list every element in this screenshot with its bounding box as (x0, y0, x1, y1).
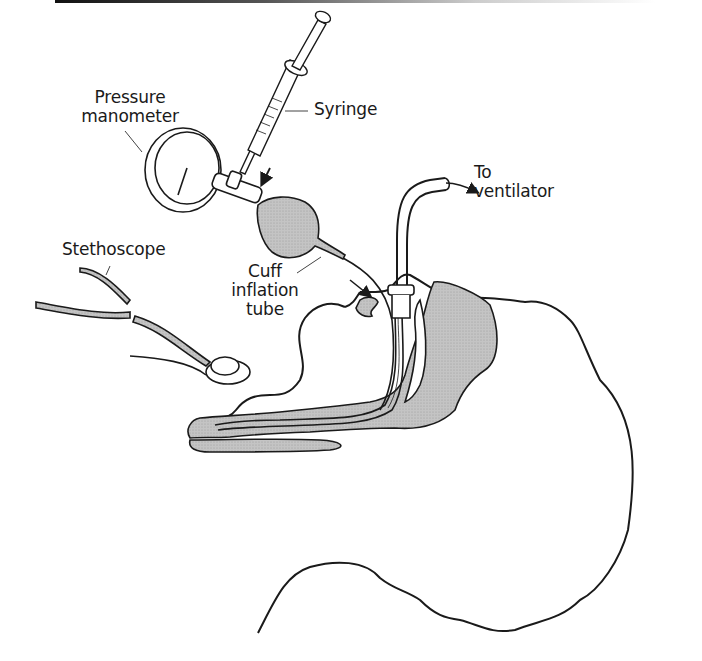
label-stethoscope: Stethoscope (62, 240, 165, 259)
label-syringe: Syringe (314, 100, 377, 119)
label-line: tube (222, 300, 308, 319)
label-to-ventilator: To ventilator (474, 163, 554, 201)
label-pressure-manometer: Pressure manometer (70, 88, 190, 126)
label-line: inflation (222, 281, 308, 300)
label-line: ventilator (474, 182, 554, 201)
label-cuff-inflation-tube: Cuff inflation tube (222, 262, 308, 319)
label-line: manometer (70, 107, 190, 126)
label-line: To (474, 163, 554, 182)
label-line: Pressure (70, 88, 190, 107)
stethoscope-device (36, 268, 250, 384)
syringe-device (240, 9, 332, 184)
label-line: Cuff (222, 262, 308, 281)
